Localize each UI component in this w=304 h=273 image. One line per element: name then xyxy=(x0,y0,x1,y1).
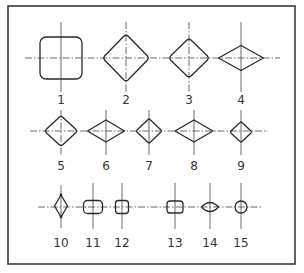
shape-6: 6 xyxy=(88,110,125,173)
shape-10-label: 10 xyxy=(53,236,68,250)
shape-5: 5 xyxy=(46,110,77,173)
vertex-dot-top xyxy=(60,194,63,197)
shape-13: 13 xyxy=(167,183,183,250)
shape-2: 2 xyxy=(104,22,149,107)
shape-6-label: 6 xyxy=(102,159,110,173)
shape-3: 3 xyxy=(170,22,209,107)
shape-2-label: 2 xyxy=(122,93,130,107)
shape-15-label: 15 xyxy=(233,236,248,250)
shape-11: 11 xyxy=(84,183,103,250)
shape-8: 8 xyxy=(175,110,213,173)
diagram-frame xyxy=(8,6,295,264)
row-3: 10 11 12 13 14 15 xyxy=(38,183,262,250)
shape-8-label: 8 xyxy=(190,159,198,173)
shape-7-label: 7 xyxy=(145,159,153,173)
shape-15: 15 xyxy=(233,183,248,250)
shape-3-label: 3 xyxy=(185,93,193,107)
shape-4-label: 4 xyxy=(237,93,245,107)
shape-14: 14 xyxy=(202,183,219,250)
row-1: 1 2 3 4 xyxy=(25,22,280,107)
shape-11-label: 11 xyxy=(85,236,100,250)
shape-9-label: 9 xyxy=(237,159,245,173)
shape-1: 1 xyxy=(40,22,82,107)
shape-13-label: 13 xyxy=(167,236,182,250)
row-2: 5 6 7 8 9 xyxy=(30,110,268,173)
shape-12-label: 12 xyxy=(114,236,129,250)
shape-9: 9 xyxy=(231,110,252,173)
shape-10: 10 xyxy=(53,185,68,250)
shape-7: 7 xyxy=(137,110,162,173)
shape-1-label: 1 xyxy=(57,93,65,107)
shape-14-label: 14 xyxy=(202,236,217,250)
shape-5-label: 5 xyxy=(57,159,65,173)
shape-12: 12 xyxy=(114,183,129,250)
cross-section-diagram: 1 2 3 4 5 xyxy=(0,0,304,273)
shape-4: 4 xyxy=(219,22,264,107)
vertex-dot-bottom xyxy=(60,216,63,219)
